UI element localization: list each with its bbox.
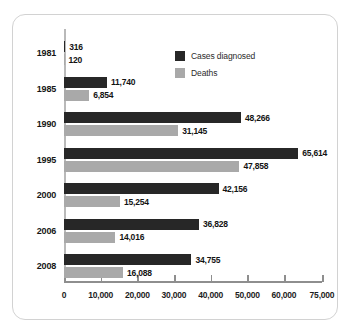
bar-value-label: 16,088 xyxy=(127,268,152,278)
bar-value-label: 11,740 xyxy=(111,77,135,87)
bar-row-deaths: 6,854 xyxy=(64,90,322,101)
bar-value-label: 42,156 xyxy=(223,184,248,194)
legend-item-deaths: Deaths xyxy=(175,68,255,78)
bar-row-cases: 48,266 xyxy=(64,112,322,123)
bar-deaths[interactable] xyxy=(64,125,178,136)
x-axis-tick-label: 75,000 xyxy=(310,290,335,300)
bar-deaths[interactable] xyxy=(64,196,120,207)
bar-cases[interactable] xyxy=(64,77,107,88)
bar-row-cases: 34,755 xyxy=(64,254,322,265)
x-axis-tick-label: 10,000 xyxy=(88,290,113,300)
bar-cases[interactable] xyxy=(64,254,191,265)
y-axis-category-label: 1995 xyxy=(37,155,56,165)
bar-row-deaths: 47,858 xyxy=(64,161,322,172)
x-axis-tick-label: 50,000 xyxy=(235,290,260,300)
bar-value-label: 47,858 xyxy=(243,161,268,171)
bar-value-label: 14,016 xyxy=(119,232,144,242)
bar-group: 200636,82814,016 xyxy=(64,219,324,243)
bar-value-label: 316 xyxy=(69,42,83,52)
bar-value-label: 6,854 xyxy=(93,90,113,100)
legend-label-cases-diagnosed: Cases diagnosed xyxy=(191,51,255,61)
y-axis-category-label: 2008 xyxy=(37,261,56,271)
bar-deaths[interactable] xyxy=(64,232,115,243)
bar-cases[interactable] xyxy=(64,183,219,194)
bar-value-label: 31,145 xyxy=(182,126,207,136)
chart-legend: Cases diagnosed Deaths xyxy=(175,51,255,85)
bar-deaths[interactable] xyxy=(64,161,239,172)
bar-row-deaths: 15,254 xyxy=(64,196,322,207)
legend-swatch-icon-deaths xyxy=(175,68,185,78)
legend-swatch-icon-cases-diagnosed xyxy=(175,51,185,61)
bar-cases[interactable] xyxy=(64,148,298,159)
bar-value-label: 34,755 xyxy=(195,255,220,265)
bar-group: 199565,61447,858 xyxy=(64,148,324,172)
bar-row-deaths: 16,088 xyxy=(64,267,322,278)
legend-label-deaths: Deaths xyxy=(191,68,217,78)
bar-row-cases: 36,828 xyxy=(64,219,322,230)
y-axis-category-label: 1985 xyxy=(37,84,56,94)
bar-cases[interactable] xyxy=(64,112,241,123)
bar-value-label: 15,254 xyxy=(124,197,149,207)
legend-item-cases-diagnosed: Cases diagnosed xyxy=(175,51,255,61)
y-axis-category-label: 1981 xyxy=(37,48,56,58)
bar-deaths[interactable] xyxy=(64,90,89,101)
bar-row-cases: 42,156 xyxy=(64,183,322,194)
bar-row-deaths: 31,145 xyxy=(64,125,322,136)
bar-cases[interactable] xyxy=(64,41,65,52)
bar-value-label: 48,266 xyxy=(245,113,270,123)
bar-cases[interactable] xyxy=(64,219,199,230)
x-axis-tick-label: 60,000 xyxy=(272,290,297,300)
bar-deaths[interactable] xyxy=(64,267,123,278)
x-axis-tick-label: 40,000 xyxy=(198,290,223,300)
bar-row-cases: 65,614 xyxy=(64,148,322,159)
bar-value-label: 120 xyxy=(68,55,82,65)
x-axis-tick-label: 20,000 xyxy=(125,290,150,300)
x-axis-tick-label: 30,000 xyxy=(162,290,187,300)
bar-group: 199048,26631,145 xyxy=(64,112,324,136)
y-axis-category-label: 1990 xyxy=(37,119,56,129)
y-axis-category-label: 2006 xyxy=(37,226,56,236)
bar-group: 200042,15615,254 xyxy=(64,183,324,207)
bar-group: 200834,75516,088 xyxy=(64,254,324,278)
bar-row-deaths: 14,016 xyxy=(64,232,322,243)
y-axis-category-label: 2000 xyxy=(37,190,56,200)
bar-value-label: 65,614 xyxy=(302,148,327,158)
x-axis-tick-label: 0 xyxy=(62,290,67,300)
bar-value-label: 36,828 xyxy=(203,219,228,229)
chart-card: 010,00020,00030,00040,00050,00060,00075,… xyxy=(12,14,338,320)
